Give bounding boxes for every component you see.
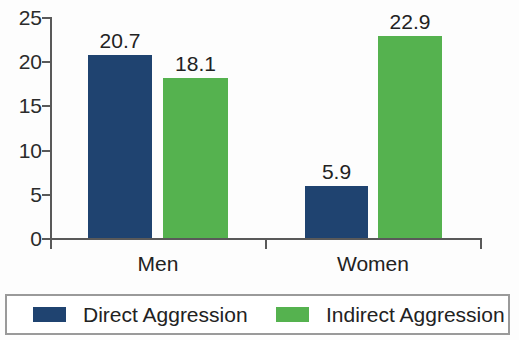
legend-label-direct: Direct Aggression [83, 304, 248, 325]
legend-item-direct[interactable]: Direct Aggression [33, 296, 248, 333]
legend-label-indirect: Indirect Aggression [326, 304, 505, 325]
legend-swatch-indirect-icon [276, 307, 309, 322]
x-axis-tick-end [480, 238, 482, 249]
plot-area: 25 20 15 10 5 0 20.7 18.1 5.9 22.9 Men W… [0, 0, 519, 285]
legend-item-indirect[interactable]: Indirect Aggression [276, 296, 505, 333]
bar-women-direct[interactable] [305, 186, 368, 238]
value-label-men-indirect: 18.1 [163, 53, 228, 74]
bar-men-direct[interactable] [88, 55, 152, 238]
value-label-women-indirect: 22.9 [378, 11, 442, 32]
x-axis-tick-start [50, 238, 52, 249]
x-axis-category-men: Men [110, 252, 206, 275]
value-label-men-direct: 20.7 [88, 30, 152, 51]
bars-layer [0, 0, 519, 238]
bar-chart: 25 20 15 10 5 0 20.7 18.1 5.9 22.9 Men W… [0, 0, 519, 340]
chart-legend: Direct Aggression Indirect Aggression [5, 294, 510, 335]
bar-women-indirect[interactable] [378, 36, 442, 238]
x-axis-tick-mid [265, 238, 267, 249]
legend-swatch-direct-icon [33, 307, 66, 322]
value-label-women-direct: 5.9 [305, 161, 368, 182]
bar-men-indirect[interactable] [163, 78, 228, 238]
x-axis-category-women: Women [325, 252, 421, 275]
